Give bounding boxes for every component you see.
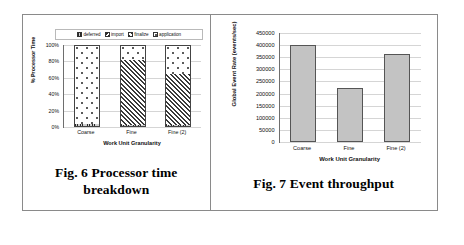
fig6-bar-segment-deferred	[166, 125, 190, 126]
fig6-y-tick-label: 40%	[49, 91, 59, 97]
fig6-x-axis-title: Work Unit Granularity	[63, 140, 201, 146]
chart-legend: deferred import finalize application	[55, 29, 203, 40]
fig6-plot-area	[63, 45, 201, 128]
legend-swatch-finalize-icon	[128, 32, 133, 37]
fig6-y-axis-ticks: 100%80%60%40%20%0%	[25, 41, 61, 131]
legend-entry-import: import	[105, 32, 124, 37]
legend-label-finalize: finalize	[134, 32, 148, 37]
fig6-bar-segment-finalize	[166, 74, 190, 125]
fig6-stacked-bar	[120, 45, 146, 127]
legend-swatch-import-icon	[105, 32, 110, 37]
fig6-x-tick-label: Coarse	[77, 129, 94, 135]
legend-label-deferred: deferred	[83, 32, 100, 37]
fig6-x-axis-ticks: CoarseFineFine (2)	[63, 129, 201, 139]
fig7-plot-area	[279, 33, 421, 143]
fig7-y-tick-label: 400000	[256, 42, 275, 48]
fig6-bar-segment-application	[75, 46, 99, 124]
fig6-x-tick-label: Fine (2)	[168, 129, 186, 135]
fig7-y-axis-ticks: 4500004000003500003000002500002000001500…	[229, 29, 277, 147]
fig7-y-tick-label: 200000	[256, 91, 275, 97]
figure-6-caption-line-2: breakdown	[23, 182, 210, 198]
fig7-x-axis-title: Work Unit Granularity	[279, 156, 421, 162]
fig6-bar-segment-deferred	[75, 124, 99, 126]
fig6-stacked-bar	[74, 45, 100, 127]
event-throughput-chart: Global Event Rate (events/sec) 450000400…	[211, 17, 438, 167]
fig6-bar-segment-application	[166, 46, 190, 74]
fig7-x-tick-label: Fine (2)	[386, 145, 405, 151]
fig6-y-tick-label: 0%	[52, 124, 60, 130]
figure-7-caption-line-1: Fig. 7 Event throughput	[211, 176, 437, 192]
figure-table: deferred import finalize application % P…	[22, 14, 438, 211]
fig7-y-tick-label: 300000	[256, 66, 275, 72]
fig6-bar-segment-application	[121, 46, 145, 60]
fig6-y-tick-label: 100%	[46, 42, 59, 48]
fig6-x-tick-label: Fine	[126, 129, 136, 135]
fig7-y-tick-label: 350000	[256, 54, 275, 60]
legend-label-import: import	[111, 32, 124, 37]
legend-entry-application: application	[153, 32, 181, 37]
fig7-x-axis-ticks: CoarseFineFine (2)	[279, 145, 421, 155]
legend-entry-deferred: deferred	[77, 32, 101, 37]
legend-swatch-deferred-icon	[77, 32, 82, 37]
fig7-bar	[337, 88, 363, 143]
fig7-x-tick-label: Coarse	[293, 145, 311, 151]
fig7-gridline	[280, 33, 421, 34]
figure-7-caption: Fig. 7 Event throughput	[211, 176, 437, 192]
figure-7-cell: Global Event Rate (events/sec) 450000400…	[211, 15, 437, 210]
fig7-y-tick-label: 450000	[256, 30, 275, 36]
fig6-y-tick-label: 80%	[49, 58, 59, 64]
figure-6-cell: deferred import finalize application % P…	[23, 15, 211, 210]
fig7-y-tick-label: 0	[271, 139, 274, 145]
fig7-y-tick-label: 50000	[259, 127, 275, 133]
fig7-y-tick-label: 150000	[256, 103, 275, 109]
fig7-y-tick-label: 250000	[256, 78, 275, 84]
legend-entry-finalize: finalize	[128, 32, 149, 37]
fig6-stacked-bar	[165, 45, 191, 127]
fig6-y-tick-label: 20%	[49, 108, 59, 114]
fig6-bar-segment-finalize	[121, 60, 145, 125]
figure-6-caption: Fig. 6 Processor time breakdown	[23, 165, 210, 198]
legend-label-application: application	[159, 32, 181, 37]
fig7-bar	[384, 54, 410, 142]
fig7-x-tick-label: Fine	[344, 145, 355, 151]
fig7-gridline	[280, 142, 421, 143]
fig6-y-tick-label: 60%	[49, 75, 59, 81]
fig7-bar	[290, 45, 316, 142]
fig7-y-tick-label: 100000	[256, 115, 275, 121]
processor-time-breakdown-chart: deferred import finalize application % P…	[23, 19, 211, 159]
fig6-bar-segment-deferred	[121, 125, 145, 126]
fig6-gridline	[64, 127, 201, 128]
legend-swatch-application-icon	[153, 32, 158, 37]
figure-6-caption-line-1: Fig. 6 Processor time	[23, 165, 210, 181]
